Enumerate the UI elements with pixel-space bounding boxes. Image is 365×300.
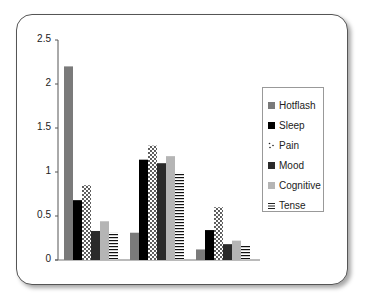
bar-tense [241,246,250,260]
bar-cognitive [100,221,109,260]
legend-item-tense: Tense [268,198,306,212]
legend-label: Mood [279,160,304,171]
legend-label: Sleep [279,120,305,131]
bar-hotflash [130,233,139,260]
cognitive-swatch-icon [268,182,275,189]
legend-item-hotflash: Hotflash [268,98,316,112]
bar-mood [223,244,232,260]
bar-pain [148,146,157,260]
bar-mood [91,231,100,260]
bar-sleep [139,160,148,260]
bar-mood [157,163,166,260]
bar-tense [109,233,118,260]
legend-label: Pain [279,140,299,151]
bar-tense [175,173,184,260]
legend-label: Tense [279,200,306,211]
legend-label: Hotflash [279,100,316,111]
bar-cognitive [166,156,175,260]
sleep-swatch-icon [268,122,275,129]
mood-swatch-icon [268,162,275,169]
legend-label: Cognitive [279,180,321,191]
legend-item-pain: Pain [268,138,299,152]
tense-lines-swatch-icon [268,202,275,209]
bar-cognitive [232,241,241,260]
legend: Hotflash Sleep Pain Mood Cognitive Tense [262,87,324,212]
legend-item-sleep: Sleep [268,118,305,132]
y-tick-label: 2.5 [21,33,51,44]
legend-item-cognitive: Cognitive [268,178,321,192]
bar-pain [214,207,223,260]
bar-hotflash [64,66,73,260]
legend-item-mood: Mood [268,158,304,172]
y-tick-label: 1.5 [21,121,51,132]
y-tick-label: 0.5 [21,209,51,220]
y-tick-label: 2 [21,77,51,88]
bar-pain [82,185,91,260]
bar-sleep [73,200,82,260]
bars [64,66,250,260]
bar-sleep [205,230,214,260]
y-tick-label: 1 [21,165,51,176]
y-tick-label: 0 [21,253,51,264]
hotflash-swatch-icon [268,102,275,109]
bar-hotflash [196,249,205,260]
pain-dots-swatch-icon [268,142,275,149]
